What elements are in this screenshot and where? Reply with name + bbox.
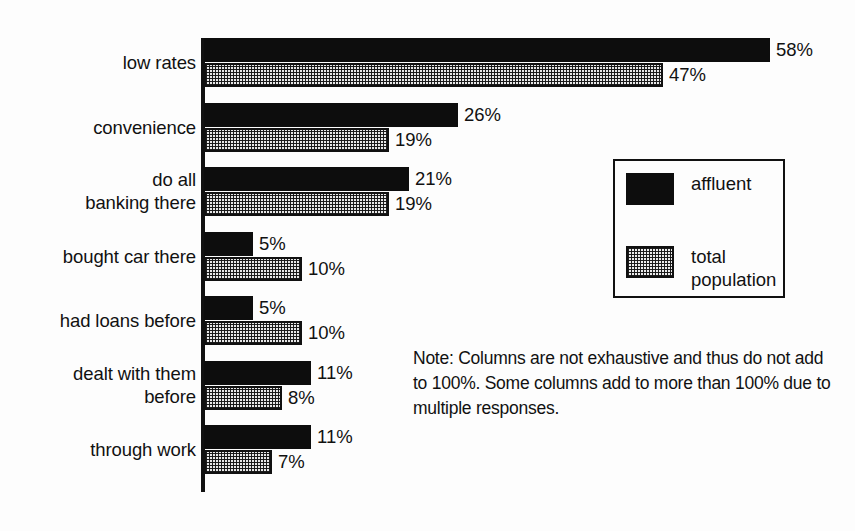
legend-item-total-population: total population bbox=[626, 246, 776, 291]
bar-chart: low rates58%47%convenience26%19%do all b… bbox=[0, 0, 855, 531]
bar-group: had loans before5%10% bbox=[0, 296, 855, 346]
chart-note: Note: Columns are not exhaustive and thu… bbox=[413, 346, 833, 421]
category-label: had loans before bbox=[0, 309, 196, 332]
bar-value-label: 8% bbox=[288, 387, 315, 409]
bar-affluent bbox=[204, 425, 311, 449]
bar-value-label: 10% bbox=[308, 322, 345, 344]
bar-value-label: 11% bbox=[317, 362, 353, 384]
bar-value-label: 26% bbox=[464, 104, 501, 126]
bar-total-population bbox=[204, 192, 389, 216]
dotted-gray-swatch-icon bbox=[626, 246, 674, 278]
bar-total-population bbox=[204, 257, 302, 281]
bar-total-population bbox=[204, 386, 282, 410]
bar-affluent bbox=[204, 38, 770, 62]
bar-group: low rates58%47% bbox=[0, 38, 855, 88]
bar-group: convenience26%19% bbox=[0, 103, 855, 153]
bar-value-label: 58% bbox=[776, 39, 813, 61]
legend-item-affluent: affluent bbox=[626, 173, 751, 205]
legend-label-total-population: total population bbox=[691, 245, 776, 291]
bar-affluent bbox=[204, 232, 253, 256]
bar-total-population bbox=[204, 128, 389, 152]
bar-group: through work11%7% bbox=[0, 425, 855, 475]
bar-value-label: 21% bbox=[415, 168, 452, 190]
bar-affluent bbox=[204, 103, 458, 127]
bar-value-label: 5% bbox=[259, 233, 286, 255]
bar-value-label: 10% bbox=[308, 258, 345, 280]
bar-value-label: 11% bbox=[317, 426, 353, 448]
bar-value-label: 5% bbox=[259, 297, 286, 319]
solid-black-swatch-icon bbox=[626, 173, 674, 205]
bar-total-population bbox=[204, 63, 663, 87]
bar-value-label: 7% bbox=[278, 451, 305, 473]
category-label: dealt with them before bbox=[0, 362, 196, 408]
chart-legend: affluent total population bbox=[613, 159, 785, 298]
bar-value-label: 19% bbox=[395, 129, 432, 151]
bar-affluent bbox=[204, 296, 253, 320]
legend-label-affluent: affluent bbox=[691, 172, 751, 195]
bar-value-label: 19% bbox=[395, 193, 432, 215]
category-label: low rates bbox=[0, 51, 196, 74]
bar-total-population bbox=[204, 321, 302, 345]
category-label: bought car there bbox=[0, 245, 196, 268]
bar-value-label: 47% bbox=[669, 64, 706, 86]
bar-affluent bbox=[204, 167, 409, 191]
bar-affluent bbox=[204, 361, 311, 385]
plot-area: low rates58%47%convenience26%19%do all b… bbox=[0, 0, 855, 531]
category-label: convenience bbox=[0, 116, 196, 139]
category-label: do all banking there bbox=[0, 168, 196, 214]
bar-total-population bbox=[204, 450, 272, 474]
category-label: through work bbox=[0, 438, 196, 461]
